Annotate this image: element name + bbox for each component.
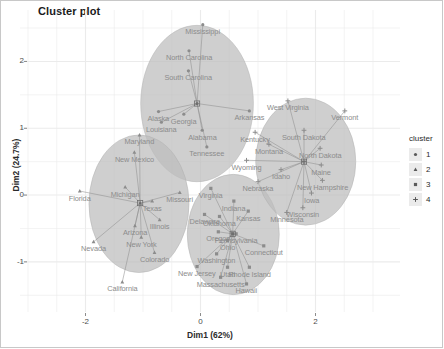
- data-point[interactable]: [205, 145, 208, 148]
- triangle-icon: [409, 163, 422, 176]
- x-axis-title: Dim1 (62%): [0, 330, 420, 340]
- data-point[interactable]: [203, 213, 206, 216]
- legend-item-label: 3: [426, 180, 430, 189]
- plus-icon: [409, 193, 422, 206]
- point-label: Tennessee: [189, 149, 224, 158]
- point-label: Idaho: [272, 172, 290, 181]
- point-label: Florida: [69, 194, 91, 203]
- data-point[interactable]: [245, 282, 248, 285]
- legend-item-1[interactable]: 1: [409, 148, 430, 161]
- cluster-centroid-3[interactable]: [231, 232, 234, 235]
- data-point[interactable]: [232, 199, 235, 202]
- point-label: North Dakota: [299, 151, 341, 160]
- data-point[interactable]: [262, 244, 265, 247]
- point-label: Delaware: [190, 217, 220, 226]
- legend-item-2[interactable]: 2: [409, 163, 430, 176]
- point-label: Wyoming: [232, 163, 262, 172]
- data-point[interactable]: [201, 23, 204, 26]
- point-label: Missouri: [166, 195, 193, 204]
- point-label: New York: [126, 240, 156, 249]
- point-label: New Jersey: [178, 269, 216, 278]
- point-label: Texas: [143, 204, 162, 213]
- legend-item-3[interactable]: 3: [409, 178, 430, 191]
- point-label: South Carolina: [164, 73, 212, 82]
- square-icon: [409, 178, 422, 191]
- point-label: Virginia: [199, 191, 223, 200]
- legend-item-label: 4: [426, 195, 430, 204]
- cluster-plot-page: Cluster plot MississippiNorth CarolinaSo…: [0, 0, 444, 349]
- point-label: Rhode Island: [228, 270, 270, 279]
- point-label: Iowa: [304, 196, 319, 205]
- point-label: Vermont: [331, 113, 358, 122]
- data-point[interactable]: [182, 113, 185, 116]
- point-label: Connecticut: [245, 248, 283, 257]
- x-tick-label: 0: [195, 317, 207, 326]
- point-label: California: [107, 284, 137, 293]
- circle-icon: [409, 148, 422, 161]
- point-label: Minnesota: [270, 215, 303, 224]
- point-label: Nebraska: [243, 184, 274, 193]
- scatter-plot-canvas: [0, 0, 444, 349]
- y-tick-label: 2: [10, 56, 24, 65]
- point-label: New Hampshire: [297, 183, 348, 192]
- point-label: Michigan: [111, 190, 140, 199]
- data-point[interactable]: [217, 230, 220, 233]
- legend-item-label: 1: [426, 150, 430, 159]
- y-tick-label: -1: [10, 257, 24, 266]
- point-label: Indiana: [222, 204, 246, 213]
- point-label: New Mexico: [115, 155, 154, 164]
- point-label: Kentucky: [240, 135, 270, 144]
- point-label: Ohio: [220, 243, 235, 252]
- point-label: Nevada: [81, 244, 106, 253]
- legend-item-4[interactable]: 4: [409, 193, 430, 206]
- point-label: Maryland: [125, 137, 155, 146]
- point-label: Arkansas: [234, 113, 264, 122]
- data-point[interactable]: [248, 109, 251, 112]
- data-point[interactable]: [195, 265, 198, 268]
- point-label: North Carolina: [166, 53, 212, 62]
- point-label: Kansas: [236, 214, 260, 223]
- point-label: Alaska: [148, 114, 170, 123]
- data-point[interactable]: [120, 280, 124, 284]
- point-label: Arizona: [123, 228, 147, 237]
- data-point[interactable]: [226, 266, 229, 269]
- data-point[interactable]: [248, 266, 251, 269]
- point-label: Louisiana: [146, 125, 177, 134]
- point-label: Alabama: [188, 133, 216, 142]
- point-label: Washington: [198, 256, 236, 265]
- legend-title: cluster: [409, 134, 433, 143]
- point-label: Colorado: [140, 255, 169, 264]
- point-label: Mississippi: [185, 27, 220, 36]
- point-label: West Virginia: [267, 103, 309, 112]
- y-axis-title: Dim2 (24.7%): [11, 105, 21, 225]
- data-point[interactable]: [138, 133, 142, 137]
- point-label: Montana: [255, 147, 283, 156]
- data-point[interactable]: [187, 69, 190, 72]
- data-point[interactable]: [209, 187, 212, 190]
- legend-item-label: 2: [426, 165, 430, 174]
- point-label: South Dakota: [282, 133, 326, 142]
- data-point[interactable]: [187, 49, 190, 52]
- data-point[interactable]: [92, 240, 96, 244]
- point-label: Maine: [311, 168, 331, 177]
- data-point[interactable]: [78, 189, 82, 193]
- point-label: Illinois: [150, 222, 170, 231]
- data-point[interactable]: [157, 110, 160, 113]
- data-point[interactable]: [201, 129, 204, 132]
- x-tick-label: -2: [80, 317, 92, 326]
- cluster-centroid-1[interactable]: [195, 102, 198, 105]
- point-label: Hawaii: [236, 286, 258, 295]
- data-point[interactable]: [247, 210, 250, 213]
- data-point[interactable]: [215, 252, 218, 255]
- x-tick-label: 2: [310, 317, 322, 326]
